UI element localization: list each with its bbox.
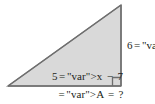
area-question-label: ="var">A = ? [57, 89, 124, 100]
geometry-figure: 6="var">x − 4 5="var">x − 7 ="var">A = ? [0, 0, 155, 104]
base-length-label: 5="var">x − 7 [52, 71, 123, 82]
vertical-leg-label: 6="var">x − 4 [127, 40, 155, 51]
